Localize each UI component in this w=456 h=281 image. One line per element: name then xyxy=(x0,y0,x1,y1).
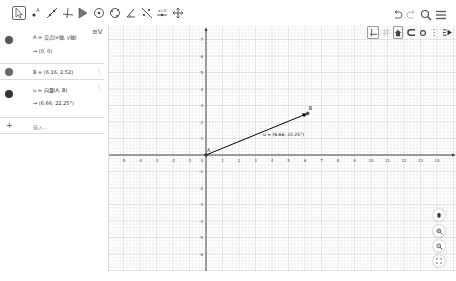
line-tool[interactable] xyxy=(45,6,59,20)
perpendicular-tool[interactable] xyxy=(61,6,75,20)
svg-text:A: A xyxy=(207,147,211,153)
svg-text:-5: -5 xyxy=(122,158,126,163)
move-graphics-tool[interactable] xyxy=(171,6,185,20)
definition-B: B = (6.16, 2.52) xyxy=(33,69,73,75)
svg-text:10: 10 xyxy=(368,158,374,163)
svg-text:-2: -2 xyxy=(199,186,203,191)
add-icon: + xyxy=(6,121,13,130)
visibility-toggle-dot[interactable] xyxy=(5,90,13,98)
home-icon xyxy=(394,29,402,37)
grid-icon xyxy=(382,28,391,37)
angle-icon xyxy=(125,7,137,19)
graphics-view[interactable]: -5-4-3-2-1012345678910111213147654321-1-… xyxy=(108,26,456,271)
zoom-in-icon xyxy=(436,228,443,235)
move-graphics-icon xyxy=(172,7,184,19)
point-tool[interactable]: A xyxy=(29,6,43,20)
svg-text:-4: -4 xyxy=(138,158,142,163)
svg-text:14: 14 xyxy=(434,158,440,163)
standard-view-button[interactable] xyxy=(393,26,403,39)
polygon-tool[interactable] xyxy=(76,6,90,20)
search-icon xyxy=(420,9,432,21)
undo-icon xyxy=(392,9,404,21)
style-bar-toggle-button[interactable] xyxy=(441,26,454,39)
svg-text:-1: -1 xyxy=(188,158,192,163)
style-bar-arrow-icon xyxy=(442,28,453,37)
settings-button[interactable] xyxy=(418,26,428,39)
algebra-item-A[interactable]: A = 交点(x轴, y轴) → (0, 0) xyxy=(0,26,104,64)
line-icon xyxy=(46,7,58,19)
svg-text:B: B xyxy=(309,105,313,111)
visibility-toggle-dot[interactable] xyxy=(5,68,13,76)
fullscreen-button[interactable] xyxy=(433,255,445,267)
value-u: → (6.66; 22.25°) xyxy=(33,100,74,106)
hamburger-menu-icon xyxy=(435,9,447,21)
redo-button[interactable] xyxy=(405,8,417,22)
circle-center-icon xyxy=(93,7,105,19)
more-options-icon[interactable]: ⋮ xyxy=(430,26,438,39)
toolbar: A a=2 xyxy=(0,0,456,26)
zoom-in-button[interactable] xyxy=(433,225,445,237)
home-icon xyxy=(436,212,442,218)
magnet-icon xyxy=(407,28,416,37)
more-options-icon[interactable]: ⋮ xyxy=(96,67,102,74)
conic-tool[interactable] xyxy=(108,6,122,20)
algebra-input-row[interactable]: + 输入... xyxy=(0,118,104,134)
grid-toggle-button[interactable] xyxy=(380,26,392,39)
axes-icon xyxy=(369,28,378,37)
more-options-icon[interactable]: ⋮ xyxy=(96,83,102,90)
definition-A: A = 交点(x轴, y轴) xyxy=(33,33,77,40)
svg-text:8: 8 xyxy=(337,158,340,163)
axes-toggle-button[interactable] xyxy=(367,26,379,39)
svg-text:4: 4 xyxy=(271,158,274,163)
redo-icon xyxy=(405,9,417,21)
svg-text:12: 12 xyxy=(401,158,407,163)
slider-tool[interactable]: a=2 xyxy=(155,6,169,20)
fullscreen-icon xyxy=(436,258,442,264)
svg-text:2: 2 xyxy=(238,158,241,163)
reflect-icon xyxy=(141,7,153,19)
svg-text:7: 7 xyxy=(320,158,323,163)
menu-button[interactable] xyxy=(435,8,447,22)
svg-text:13: 13 xyxy=(418,158,424,163)
svg-text:0: 0 xyxy=(201,158,204,163)
zoom-out-icon xyxy=(436,243,443,250)
svg-text:11: 11 xyxy=(385,158,391,163)
visibility-toggle-dot[interactable] xyxy=(5,36,13,44)
svg-text:9: 9 xyxy=(353,158,356,163)
svg-text:-3: -3 xyxy=(155,158,159,163)
svg-text:6: 6 xyxy=(304,158,307,163)
undo-button[interactable] xyxy=(392,8,404,22)
svg-text:-2: -2 xyxy=(171,158,175,163)
zoom-out-button[interactable] xyxy=(433,240,445,252)
svg-text:u = (6.66; 22.25°): u = (6.66; 22.25°) xyxy=(263,132,304,137)
cursor-arrow-icon xyxy=(13,7,25,19)
svg-text:a=2: a=2 xyxy=(158,8,167,13)
algebra-input[interactable]: 输入... xyxy=(33,123,48,130)
ellipse-icon xyxy=(109,7,121,19)
standard-view-zoom-button[interactable] xyxy=(433,209,445,221)
svg-text:A: A xyxy=(36,7,40,13)
svg-text:-4: -4 xyxy=(199,219,203,224)
svg-text:3: 3 xyxy=(254,158,257,163)
algebra-view: ≡V A = 交点(x轴, y轴) → (0, 0) B = (6.16, 2.… xyxy=(0,26,108,281)
value-A: → (0, 0) xyxy=(33,48,52,54)
definition-u: u = 向量(A, B) xyxy=(33,86,67,93)
algebra-item-u[interactable]: u = 向量(A, B) → (6.66; 22.25°) ⋮ xyxy=(0,80,104,118)
point-icon: A xyxy=(30,7,42,19)
perpendicular-icon xyxy=(62,7,74,19)
algebra-item-B[interactable]: B = (6.16, 2.52) ⋮ xyxy=(0,64,104,80)
point-capture-button[interactable] xyxy=(405,26,417,39)
move-tool[interactable] xyxy=(12,6,26,20)
gear-icon xyxy=(419,29,427,37)
svg-text:-5: -5 xyxy=(199,235,203,240)
svg-text:-6: -6 xyxy=(199,252,203,257)
svg-text:1: 1 xyxy=(221,158,224,163)
circle-tool[interactable] xyxy=(92,6,106,20)
angle-tool[interactable] xyxy=(124,6,138,20)
svg-text:-3: -3 xyxy=(199,202,203,207)
coordinate-plane[interactable]: -5-4-3-2-1012345678910111213147654321-1-… xyxy=(109,26,456,271)
svg-text:-1: -1 xyxy=(199,169,203,174)
reflect-tool[interactable] xyxy=(140,6,154,20)
search-button[interactable] xyxy=(420,8,432,22)
svg-text:5: 5 xyxy=(287,158,290,163)
